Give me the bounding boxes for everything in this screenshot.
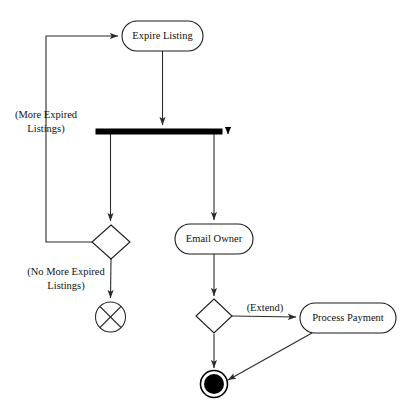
guard-more-expired-listings-line-1: (More Expired bbox=[15, 109, 78, 121]
edge-process-payment-to-activity-final bbox=[228, 333, 312, 380]
activity-diagram: Expire Listing Email Owner Process Payme… bbox=[0, 0, 414, 419]
guard-more-expired-listings-line-2: Listings) bbox=[27, 123, 65, 135]
control-flow-edges bbox=[46, 36, 312, 380]
flow-final-node[interactable] bbox=[96, 302, 126, 332]
activity-final-inner-disc bbox=[204, 374, 224, 394]
action-node-email-owner[interactable]: Email Owner bbox=[175, 224, 253, 254]
activity-diagram-canvas: Expire Listing Email Owner Process Payme… bbox=[0, 0, 414, 419]
edge-decision-left-to-flow-final bbox=[111, 259, 112, 298]
guard-extend: (Extend) bbox=[247, 302, 284, 314]
expire-listing-label: Expire Listing bbox=[132, 30, 193, 41]
edge-decision-to-process-payment bbox=[232, 316, 296, 317]
fork-bar-shape[interactable] bbox=[96, 129, 222, 134]
guard-extend-label: (Extend) bbox=[247, 302, 284, 314]
fork-node[interactable] bbox=[96, 129, 222, 134]
decision-node-left[interactable] bbox=[92, 225, 130, 259]
process-payment-label: Process Payment bbox=[312, 312, 384, 323]
decision-right-shape[interactable] bbox=[196, 299, 232, 333]
action-node-process-payment[interactable]: Process Payment bbox=[300, 303, 396, 333]
decision-node-right[interactable] bbox=[196, 299, 232, 333]
action-node-expire-listing[interactable]: Expire Listing bbox=[122, 21, 203, 51]
guard-no-more-expired-listings-line-1: (No More Expired bbox=[27, 266, 105, 278]
edge-loop-back-to-expire-listing bbox=[46, 36, 118, 242]
email-owner-label: Email Owner bbox=[186, 233, 243, 244]
guard-no-more-expired-listings: (No More Expired Listings) bbox=[27, 266, 105, 292]
decision-left-shape[interactable] bbox=[92, 225, 130, 259]
guard-no-more-expired-listings-line-2: Listings) bbox=[47, 280, 85, 292]
activity-final-node[interactable] bbox=[201, 371, 228, 398]
